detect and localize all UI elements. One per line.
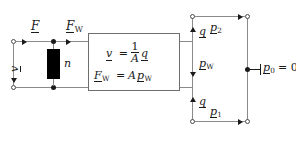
eq1-rhs: q: [141, 49, 148, 60]
label-voltage-v: v: [9, 66, 21, 72]
pressure-p2-symbol: p: [210, 23, 217, 34]
pressure-arrow-p2: [238, 14, 243, 20]
eq2-equals: =: [116, 69, 125, 82]
pressure-pw-symbol: p: [199, 59, 206, 70]
force-f-symbol: F: [31, 21, 39, 33]
label-pressure-p2: p2: [210, 22, 222, 34]
eq2-lhs: F: [94, 71, 102, 82]
label-force-fw: FW: [66, 20, 83, 34]
label-force-f: F: [31, 20, 39, 33]
flow-arrow-q-top: [190, 27, 196, 32]
eq2-rhs-subscript: W: [144, 74, 151, 83]
label-pressure-pw: pW: [199, 58, 214, 70]
eq2-coefficient: A: [128, 69, 136, 82]
eq1-denominator: A: [131, 52, 139, 64]
pressure-p1-symbol: p: [210, 107, 217, 118]
terminal-right-top: [245, 14, 250, 19]
flow-q-top-symbol: q: [199, 27, 206, 38]
eq1-numerator: 1: [131, 41, 139, 52]
label-transformer-ratio: n: [64, 58, 71, 69]
force-arrow-f: [22, 39, 27, 45]
flow-q-bottom-symbol: q: [199, 97, 206, 108]
pressure-p2-subscript: 2: [217, 26, 222, 35]
reference-p0-symbol: p: [263, 63, 270, 74]
terminal-right-bottom: [245, 119, 250, 124]
eq1-lhs: v: [106, 49, 112, 60]
eq2-lhs-subscript: W: [102, 74, 109, 83]
reference-p0-subscript: 0: [270, 66, 275, 75]
eq1-fraction: 1A: [131, 41, 139, 64]
pressure-arrow-pw: [190, 72, 196, 77]
pressure-p1-subscript: 1: [217, 110, 222, 119]
pressure-pw-subscript: W: [206, 62, 213, 71]
label-reference-pressure: p0= 0: [263, 62, 296, 74]
wire-middle-rail-center: [192, 41, 193, 88]
wire-middle-rail-lower: [192, 87, 193, 121]
label-pressure-p1: p1: [210, 106, 222, 118]
reference-equals-zero: = 0: [278, 61, 296, 74]
circuit-diagram: v F FW n v =1Aq FW =ApW: [0, 0, 296, 141]
pressure-arrow-p1: [238, 119, 243, 125]
voltage-symbol: v: [10, 66, 21, 72]
flow-arrow-q-bottom: [190, 97, 196, 102]
transformer-element: [47, 49, 60, 79]
force-fw-symbol: F: [66, 21, 74, 33]
label-flow-q-top: q: [199, 26, 206, 38]
equation-one: v =1Aq: [106, 41, 148, 64]
voltage-arrow-down: [11, 78, 17, 83]
eq1-equals: =: [119, 47, 128, 60]
force-arrow-fw: [66, 39, 71, 45]
force-fw-subscript: W: [75, 25, 83, 34]
reference-stem-horizontal: [250, 69, 260, 70]
equation-two: FW =ApW: [94, 70, 152, 82]
wire-transformer-bottom-stub: [53, 78, 54, 86]
reference-stem-vertical: [260, 64, 261, 75]
label-flow-q-bottom: q: [199, 96, 206, 108]
transformer-ratio-symbol: n: [64, 57, 71, 70]
